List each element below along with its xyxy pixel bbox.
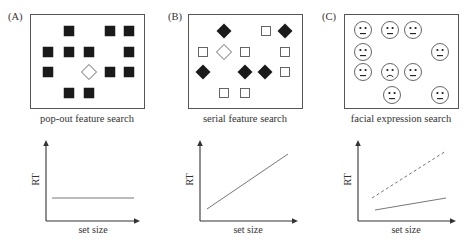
filled-diamond-icon	[196, 65, 211, 80]
filled-square-icon	[64, 47, 75, 58]
chart-b-xlabel: set size	[218, 224, 278, 235]
filled-square-icon	[84, 47, 95, 58]
filled-square-icon	[124, 47, 135, 58]
filled-square-icon	[43, 47, 54, 58]
open-diamond-icon	[217, 45, 232, 60]
panel-c-letter: (C)	[322, 11, 336, 22]
open-diamond-icon	[82, 65, 97, 80]
neutral-face-icon	[432, 44, 449, 61]
panel-c-caption: facial expression search	[336, 113, 466, 124]
open-square-icon	[281, 48, 290, 57]
x-axis-arrow-icon	[450, 218, 456, 224]
neutral-face-icon	[355, 64, 372, 81]
neutral-face-icon	[355, 44, 372, 61]
open-square-icon	[241, 48, 250, 57]
sad-face-icon	[382, 64, 399, 81]
chart-a-xlabel: set size	[63, 224, 123, 235]
neutral-face-icon	[405, 64, 422, 81]
filled-square-icon	[124, 26, 135, 37]
open-square-icon	[220, 89, 229, 98]
neutral-face-icon	[384, 87, 401, 104]
filled-square-icon	[64, 88, 75, 99]
data-line-solid	[375, 198, 446, 210]
filled-square-icon	[84, 88, 95, 99]
open-square-icon	[281, 68, 290, 77]
chart-b-ylabel: RT	[184, 173, 195, 185]
chart-c-xlabel: set size	[376, 224, 436, 235]
filled-square-icon	[105, 26, 116, 37]
y-axis-arrow-icon	[197, 140, 203, 146]
neutral-face-icon	[405, 22, 422, 39]
chart-c-ylabel: RT	[342, 173, 353, 185]
y-axis-arrow-icon	[355, 140, 361, 146]
filled-diamond-icon	[238, 65, 253, 80]
data-line-solid	[207, 154, 288, 209]
open-square-icon	[262, 27, 271, 36]
x-axis-arrow-icon	[134, 218, 140, 224]
filled-diamond-icon	[278, 24, 293, 39]
panel-b-caption: serial feature search	[180, 113, 310, 124]
data-line-dashed	[372, 151, 446, 198]
panel-a-letter: (A)	[8, 11, 23, 22]
filled-square-icon	[64, 26, 75, 37]
filled-diamond-icon	[217, 24, 232, 39]
stimulus-box	[345, 15, 459, 109]
open-square-icon	[199, 48, 208, 57]
neutral-face-icon	[432, 87, 449, 104]
x-axis-arrow-icon	[292, 218, 298, 224]
filled-square-icon	[124, 67, 135, 78]
panel-a-caption: pop-out feature search	[22, 113, 152, 124]
panel-b-letter: (B)	[168, 11, 182, 22]
y-axis-arrow-icon	[43, 140, 49, 146]
chart-a-ylabel: RT	[30, 173, 41, 185]
filled-square-icon	[43, 67, 54, 78]
open-square-icon	[241, 89, 250, 98]
neutral-face-icon	[382, 22, 399, 39]
filled-square-icon	[105, 67, 116, 78]
filled-diamond-icon	[258, 65, 273, 80]
neutral-face-icon	[355, 22, 372, 39]
